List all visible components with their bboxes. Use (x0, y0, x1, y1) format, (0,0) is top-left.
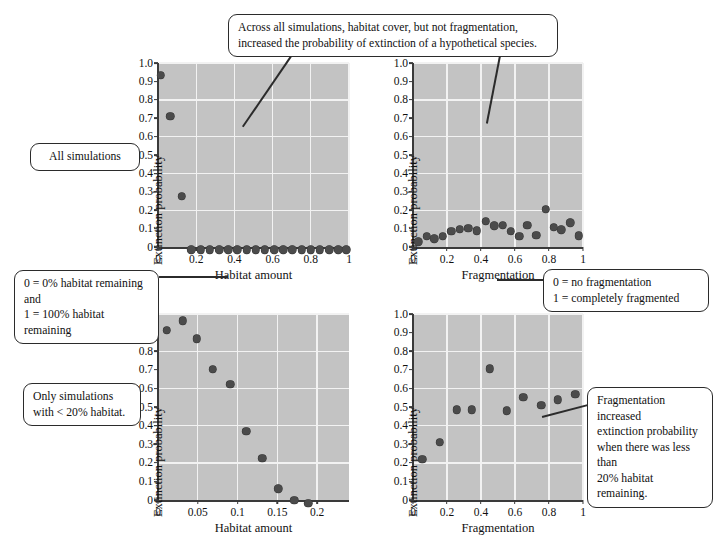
x-axis-label-bottom-right: Fragmentation (462, 521, 535, 536)
x-axis-tick-label: 0.05 (188, 500, 208, 519)
data-point (482, 218, 490, 226)
data-point (448, 228, 456, 236)
y-axis-tick-label: 0.7 (394, 364, 413, 376)
gridline-vertical (548, 314, 549, 500)
y-axis-tick-label: 0.4 (394, 168, 413, 180)
data-point (423, 232, 431, 240)
data-point (491, 222, 499, 230)
y-axis-tick-label: 0.5 (394, 401, 413, 413)
y-axis-tick-label: 0.2 (139, 457, 158, 469)
gridline-horizontal (158, 388, 349, 389)
data-point (259, 454, 267, 462)
data-point (431, 235, 439, 243)
gridline-vertical (480, 314, 481, 500)
data-point (163, 327, 171, 335)
data-point (270, 246, 278, 254)
gridline-vertical (237, 314, 238, 500)
x-axis-tick-label: 0.2 (440, 247, 454, 266)
callout-only-simulations: Only simulations with < 20% habitat. (23, 383, 141, 426)
x-axis-tick-label: 0.2 (440, 500, 454, 519)
data-point (280, 246, 288, 254)
gridline-horizontal (413, 210, 583, 211)
gridline-horizontal (158, 425, 349, 426)
gridline-horizontal (413, 173, 583, 174)
data-point (215, 246, 223, 254)
y-axis-tick-label: 1.0 (394, 57, 413, 69)
gridline-vertical (196, 63, 197, 247)
data-point (243, 246, 251, 254)
gridline-vertical (234, 63, 235, 247)
y-axis-tick-label: 0.7 (139, 364, 158, 376)
gridline-horizontal (413, 313, 583, 314)
data-point (178, 193, 186, 201)
data-point (227, 380, 235, 388)
y-axis-tick-label: 0.8 (139, 94, 158, 106)
gridline-vertical (277, 314, 278, 500)
x-axis-tick-label: 1 (580, 247, 586, 266)
figure-root: Extinction probability Habitat amount 00… (0, 0, 719, 547)
data-point (550, 223, 558, 231)
y-axis-tick-label: 0.4 (394, 420, 413, 432)
data-point (473, 227, 481, 235)
data-point (252, 246, 260, 254)
panel-bottom-right: Extinction probability Fragmentation 00.… (413, 314, 583, 500)
data-point (507, 228, 515, 236)
data-point (206, 246, 214, 254)
data-point (274, 485, 282, 493)
plot-area-bottom-right (413, 314, 583, 500)
plot-area-top-right (413, 63, 583, 247)
y-axis-tick-label: 0.4 (139, 168, 158, 180)
data-point (414, 238, 422, 246)
y-axis-tick-label: 0.2 (394, 457, 413, 469)
y-axis-tick-label: 0.6 (394, 383, 413, 395)
callout-habitat-scale: 0 = 0% habitat remaining and 1 = 100% ha… (14, 270, 159, 344)
y-axis-tick-label: 0.2 (394, 204, 413, 216)
x-axis-tick-label: 0.8 (542, 500, 556, 519)
data-point (533, 231, 541, 239)
data-point (188, 246, 196, 254)
y-axis-tick-label: 0.3 (139, 186, 158, 198)
gridline-horizontal (413, 425, 583, 426)
x-axis-tick-label: 0.6 (508, 500, 522, 519)
data-point (419, 456, 427, 464)
data-point (298, 246, 306, 254)
y-axis-tick-label: 0.3 (139, 438, 158, 450)
x-axis-tick-label: 0.8 (542, 247, 556, 266)
gridline-horizontal (413, 99, 583, 100)
data-point (453, 406, 461, 414)
gridline-horizontal (158, 99, 349, 100)
y-axis-tick-label: 0.5 (394, 149, 413, 161)
gridline-vertical (348, 63, 349, 247)
data-point (167, 113, 175, 121)
gridline-horizontal (413, 136, 583, 137)
data-point (468, 406, 476, 414)
data-point (261, 246, 269, 254)
callout-fragmentation-effect: Fragmentation increased extinction proba… (587, 387, 713, 508)
data-point (439, 232, 447, 240)
x-axis-label-bottom-left: Habitat amount (215, 521, 292, 536)
gridline-vertical (582, 63, 583, 247)
callout-all-simulations: All simulations (30, 143, 140, 171)
data-point (290, 496, 298, 504)
gridline-vertical (310, 63, 311, 247)
plot-area-bottom-left (158, 314, 349, 500)
y-axis-tick-label: 1.0 (139, 57, 158, 69)
gridline-vertical (272, 63, 273, 247)
y-axis-tick-label: 0.8 (394, 94, 413, 106)
data-point (209, 366, 217, 374)
gridline-horizontal (158, 136, 349, 137)
x-axis-tick-label: 0.4 (474, 500, 488, 519)
x-axis-label-top-right: Fragmentation (462, 268, 535, 283)
gridline-horizontal (158, 313, 349, 314)
y-axis-tick-label: 0.7 (139, 112, 158, 124)
data-point (179, 317, 187, 325)
data-point (316, 246, 324, 254)
data-point (342, 246, 350, 254)
callout-top-summary: Across all simulations, habitat cover, b… (228, 14, 558, 57)
x-axis-tick-label: 0 (410, 247, 416, 266)
x-axis-tick-label: 0.4 (474, 247, 488, 266)
data-point (456, 225, 464, 233)
y-axis-tick-label: 0.6 (139, 131, 158, 143)
leader-line-fragmentation-scale (497, 279, 545, 281)
y-axis-tick-label: 0.4 (139, 420, 158, 432)
